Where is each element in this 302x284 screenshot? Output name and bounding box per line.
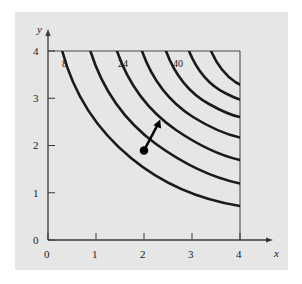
x-tick-label-3: 3 <box>188 249 194 260</box>
x-tick-label-2: 2 <box>140 249 146 260</box>
y-axis-name: y <box>37 24 42 35</box>
contour-curve-level-56 <box>211 51 240 85</box>
y-tick-label-0: 0 <box>33 235 39 246</box>
plot-drawing-area <box>0 0 302 284</box>
x-tick-label-0: 0 <box>44 249 50 260</box>
contour-curve-level-16 <box>90 51 240 184</box>
y-tick-label-4: 4 <box>33 46 39 57</box>
x-axis <box>48 237 273 242</box>
contour-label-24: 24 <box>118 59 128 69</box>
x-tick-label-4: 4 <box>236 249 242 260</box>
contour-label-8: 8 <box>62 59 67 69</box>
y-axis-ticks <box>48 51 55 240</box>
x-axis-name: x <box>274 248 279 259</box>
contour-curves <box>62 51 240 206</box>
y-axis <box>45 29 50 240</box>
y-tick-label-1: 1 <box>33 188 39 199</box>
y-tick-label-3: 3 <box>33 93 39 104</box>
y-tick-label-2: 2 <box>33 140 39 151</box>
x-axis-ticks <box>48 233 240 240</box>
contour-label-40: 40 <box>173 59 183 69</box>
plot-frame <box>48 51 240 240</box>
x-tick-label-1: 1 <box>92 249 98 260</box>
point-marker <box>140 146 149 155</box>
contour-plot-figure: 0 1 2 3 4 0 1 2 3 4 y x 8 24 40 <box>0 0 302 284</box>
